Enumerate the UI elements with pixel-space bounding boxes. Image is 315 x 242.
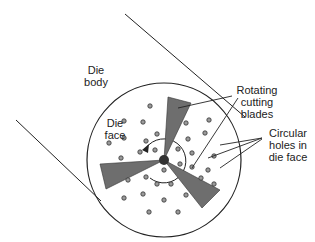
label-die-face: Die face xyxy=(100,117,130,141)
hub xyxy=(159,155,169,165)
label-circular-holes: Circular holes in die face xyxy=(262,127,314,163)
die-body-edge-left xyxy=(16,120,101,201)
label-die-body: Die body xyxy=(80,64,112,88)
rotation-arrow-icon xyxy=(142,144,149,153)
holes-leader-1 xyxy=(220,138,262,145)
holes-leader-2 xyxy=(208,138,262,158)
label-rotating-blades: Rotating cutting blades xyxy=(228,84,286,120)
blade-left xyxy=(100,160,164,189)
die-face-diagram xyxy=(0,0,315,242)
